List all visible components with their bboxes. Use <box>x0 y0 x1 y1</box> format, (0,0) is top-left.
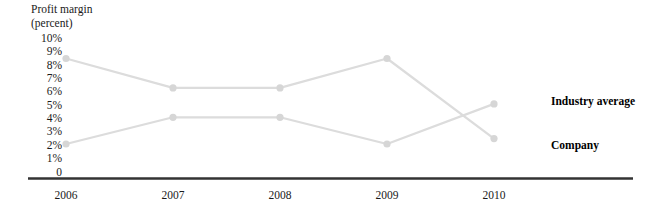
data-point-marker <box>490 100 497 107</box>
data-point-marker <box>169 114 176 121</box>
series-company <box>62 100 497 147</box>
data-point-marker <box>383 140 390 147</box>
data-point-marker <box>383 55 390 62</box>
x-tick-label: 2009 <box>376 190 399 202</box>
profit-margin-line-chart: Profit margin (percent) 10%9%8%7%6%5%4%3… <box>0 0 671 218</box>
data-point-marker <box>490 135 497 142</box>
legend-label-industry-average: Industry average <box>551 95 635 107</box>
x-tick-label: 2007 <box>162 190 185 202</box>
series-layer <box>62 55 497 148</box>
legend-label-company: Company <box>551 139 599 151</box>
x-tick-label: 2008 <box>269 190 292 202</box>
data-point-marker <box>276 84 283 91</box>
plot-area <box>0 0 671 218</box>
series-line <box>66 104 494 144</box>
data-point-marker <box>62 140 69 147</box>
data-point-marker <box>62 55 69 62</box>
x-tick-label: 2010 <box>483 190 506 202</box>
data-point-marker <box>169 84 176 91</box>
series-line <box>66 59 494 139</box>
x-tick-label: 2006 <box>55 190 78 202</box>
data-point-marker <box>276 114 283 121</box>
